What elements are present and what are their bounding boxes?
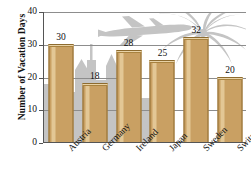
- y-tick-mark: [39, 45, 43, 46]
- x-axis-labels: AustriaGermanyIrelandJapanSwedenSwitzerl…: [43, 143, 246, 191]
- y-axis-ticks: 010203040: [43, 12, 246, 143]
- y-tick-label: 40: [9, 6, 37, 16]
- y-tick-label: 20: [9, 72, 37, 82]
- y-tick-mark: [39, 110, 43, 111]
- y-tick-label: 30: [9, 39, 37, 49]
- y-tick-label: 10: [9, 104, 37, 114]
- y-tick-label: 0: [9, 137, 37, 147]
- vacation-days-bar-chart: Number of Vacation Days: [0, 0, 251, 191]
- y-tick-mark: [39, 78, 43, 79]
- y-tick-mark: [39, 12, 43, 13]
